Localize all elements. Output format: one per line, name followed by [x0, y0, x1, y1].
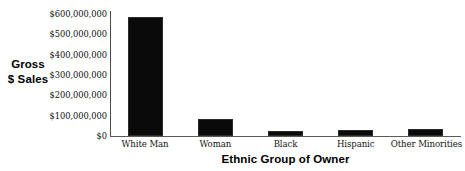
x-tick-label: Black	[250, 139, 320, 149]
bar	[408, 129, 443, 136]
x-axis-title: Ethnic Group of Owner	[110, 153, 461, 165]
y-tick-label: $400,000,000	[30, 50, 107, 60]
x-tick-label: Other Minorities	[391, 139, 461, 149]
x-tick-label: Woman	[180, 139, 250, 149]
y-axis-tick-labels: $600,000,000$500,000,000$400,000,000$300…	[30, 0, 107, 171]
plot-area: White ManWomanBlackHispanicOther Minorit…	[110, 0, 461, 171]
y-tick-label: $300,000,000	[30, 70, 107, 80]
y-tick-label: $200,000,000	[30, 90, 107, 100]
x-tick-label: White Man	[110, 139, 180, 149]
bar-chart: Gross $ Sales $600,000,000$500,000,000$4…	[0, 0, 465, 171]
y-tick-label: $500,000,000	[30, 29, 107, 39]
x-tick-label: Hispanic	[321, 139, 391, 149]
y-tick-label: $100,000,000	[30, 111, 107, 121]
y-tick-label: $0	[30, 131, 107, 141]
bar	[268, 131, 303, 136]
bar	[198, 119, 233, 136]
bar	[338, 130, 373, 136]
y-tick-label: $600,000,000	[30, 9, 107, 19]
bar	[128, 17, 163, 136]
